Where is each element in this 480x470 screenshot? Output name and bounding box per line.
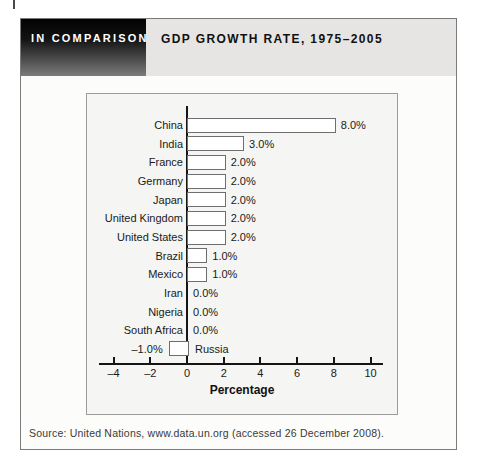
x-axis-tick-label: 6 bbox=[282, 367, 312, 379]
bar-value-label: 1.0% bbox=[212, 266, 237, 282]
bar-category-label: United Kingdom bbox=[87, 210, 183, 226]
bar bbox=[187, 174, 226, 189]
bar-value-label: –1.0% bbox=[87, 341, 163, 357]
x-axis-tick bbox=[333, 357, 335, 363]
bar-category-label: Japan bbox=[87, 192, 183, 208]
x-axis-tick-label: 2 bbox=[209, 367, 239, 379]
bar-value-label: 2.0% bbox=[231, 154, 256, 170]
page-edge-mark bbox=[13, 0, 15, 9]
bar-category-label: India bbox=[87, 136, 183, 152]
bar-value-label: 2.0% bbox=[231, 229, 256, 245]
x-axis-title: Percentage bbox=[192, 383, 292, 397]
source-note: Source: United Nations, www.data.un.org … bbox=[29, 427, 449, 439]
x-axis-tick bbox=[223, 357, 225, 363]
bar bbox=[187, 136, 244, 151]
figure-header: IN COMPARISON GDP GROWTH RATE, 1975–2005 bbox=[21, 19, 456, 76]
x-axis-tick bbox=[370, 357, 372, 363]
kicker-label: IN COMPARISON bbox=[21, 19, 146, 44]
bar-category-label: France bbox=[87, 154, 183, 170]
x-axis-tick-label: 8 bbox=[319, 367, 349, 379]
bar-category-label: United States bbox=[87, 229, 183, 245]
title-band: GDP GROWTH RATE, 1975–2005 bbox=[146, 19, 456, 76]
bar-value-label: 0.0% bbox=[193, 322, 218, 338]
x-axis-tick bbox=[296, 357, 298, 363]
bar-value-label: 2.0% bbox=[231, 210, 256, 226]
x-axis-tick bbox=[149, 357, 151, 363]
figure-box: IN COMPARISON GDP GROWTH RATE, 1975–2005… bbox=[20, 18, 457, 450]
bar-category-label: Germany bbox=[87, 173, 183, 189]
bar bbox=[187, 118, 336, 133]
bar-category-label: Iran bbox=[87, 285, 183, 301]
bar-category-label: Russia bbox=[195, 341, 229, 357]
x-axis-tick bbox=[259, 357, 261, 363]
bar bbox=[187, 211, 226, 226]
bar-category-label: China bbox=[87, 117, 183, 133]
figure-title: GDP GROWTH RATE, 1975–2005 bbox=[146, 19, 456, 46]
bar bbox=[187, 155, 226, 170]
bar-value-label: 0.0% bbox=[193, 285, 218, 301]
x-axis-tick bbox=[186, 357, 188, 363]
bar-category-label: South Africa bbox=[87, 322, 183, 338]
bar bbox=[187, 248, 207, 263]
bar bbox=[169, 341, 189, 356]
x-axis-tick-label: 4 bbox=[245, 367, 275, 379]
x-axis-tick-label: 0 bbox=[172, 367, 202, 379]
bar-chart: Percentage –4–20246810China8.0%India3.0%… bbox=[86, 93, 398, 415]
bar bbox=[187, 230, 226, 245]
x-axis-tick-label: –2 bbox=[135, 367, 165, 379]
bar-value-label: 2.0% bbox=[231, 192, 256, 208]
x-axis-line bbox=[99, 363, 383, 365]
bar bbox=[187, 267, 207, 282]
bar-value-label: 0.0% bbox=[193, 304, 218, 320]
x-axis-tick-label: –4 bbox=[99, 367, 129, 379]
bar-category-label: Mexico bbox=[87, 266, 183, 282]
x-axis-tick-label: 10 bbox=[356, 367, 386, 379]
bar-value-label: 2.0% bbox=[231, 173, 256, 189]
kicker-band: IN COMPARISON bbox=[21, 19, 146, 76]
bar-category-label: Brazil bbox=[87, 248, 183, 264]
bar-value-label: 3.0% bbox=[249, 136, 274, 152]
bar bbox=[187, 192, 226, 207]
bar-value-label: 8.0% bbox=[341, 117, 366, 133]
x-axis-tick bbox=[113, 357, 115, 363]
bar-value-label: 1.0% bbox=[212, 248, 237, 264]
bar-category-label: Nigeria bbox=[87, 304, 183, 320]
